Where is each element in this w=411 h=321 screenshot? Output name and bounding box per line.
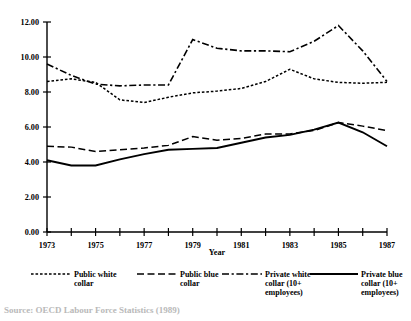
legend-label-3: employees): [361, 288, 399, 297]
figure-caption-text: Source: OECD Labour Force Statistics (19…: [4, 305, 180, 315]
x-tick-label: 1977: [136, 241, 152, 250]
legend-label-2: collar (10+: [265, 279, 302, 288]
legend-label-3: collar (10+: [361, 279, 398, 288]
legend-label-1: collar: [180, 279, 200, 288]
y-tick-label: 4.00: [25, 158, 39, 167]
x-tick-label: 1981: [233, 241, 249, 250]
line-chart: 0.002.004.006.008.0010.0012.00 197319751…: [0, 0, 411, 321]
figure-caption: Source: OECD Labour Force Statistics (19…: [0, 301, 411, 321]
y-tick-label: 10.00: [21, 53, 39, 62]
x-tick-label: 1975: [87, 241, 103, 250]
y-tick-label: 2.00: [25, 193, 39, 202]
legend-label-2: employees): [265, 288, 303, 297]
x-tick-label: 1973: [39, 241, 55, 250]
x-tick-label: 1985: [330, 241, 346, 250]
y-tick-label: 8.00: [25, 88, 39, 97]
chart-series-group: [47, 26, 387, 166]
legend-label-1: Public blue: [180, 270, 219, 279]
legend-label-3: Private blue: [361, 270, 403, 279]
legend-label-0: Public white: [74, 270, 117, 279]
series-line-0: [47, 69, 387, 102]
x-tick-label: 1983: [282, 241, 298, 250]
chart-figure: 0.002.004.006.008.0010.0012.00 197319751…: [0, 0, 411, 321]
legend-label-2: Private white: [265, 270, 311, 279]
x-tick-label: 1987: [379, 241, 395, 250]
x-tick-label: 1979: [185, 241, 201, 250]
y-axis-tick-labels: 0.002.004.006.008.0010.0012.00: [21, 18, 39, 237]
chart-legend: Public whitecollarPublic bluecollarPriva…: [31, 270, 403, 297]
y-tick-label: 0.00: [25, 228, 39, 237]
series-line-3: [47, 123, 387, 166]
y-tick-label: 12.00: [21, 18, 39, 27]
x-axis-title: Year: [209, 248, 226, 257]
chart-axes: [47, 22, 387, 232]
y-tick-label: 6.00: [25, 123, 39, 132]
legend-label-0: collar: [74, 279, 94, 288]
series-line-2: [47, 26, 387, 86]
